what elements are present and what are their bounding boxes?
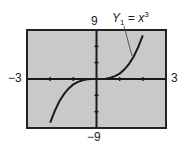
function-label-main: Y: [112, 11, 120, 25]
y-max-label: 9: [91, 15, 98, 27]
x-min-label: −3: [8, 72, 22, 84]
function-label-eq: = x: [124, 11, 144, 25]
function-label-exponent: 3: [144, 10, 148, 19]
function-label: Y1 = x3: [112, 11, 149, 27]
y-min-label: −9: [87, 131, 101, 143]
x-max-label: 3: [171, 72, 178, 84]
